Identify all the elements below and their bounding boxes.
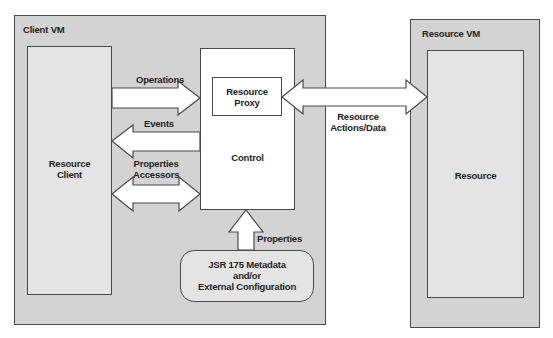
properties-accessors-label-line1: Properties — [133, 158, 179, 169]
properties-accessors-label: Properties Accessors — [133, 158, 179, 180]
resource-actions-label-line2: Actions/Data — [322, 122, 394, 133]
events-arrow — [112, 125, 200, 158]
properties-arrow — [229, 210, 263, 250]
operations-arrow — [112, 81, 200, 115]
properties-accessors-arrow — [112, 177, 200, 211]
properties-accessors-label-line2: Accessors — [133, 169, 179, 180]
resource-actions-label: Resource Actions/Data — [322, 111, 394, 133]
resource-actions-arrow — [282, 80, 427, 114]
arrows-layer — [0, 0, 553, 338]
properties-label: Properties — [257, 233, 302, 244]
operations-label: Operations — [136, 74, 184, 85]
events-label: Events — [144, 118, 174, 129]
resource-actions-label-line1: Resource — [322, 111, 394, 122]
